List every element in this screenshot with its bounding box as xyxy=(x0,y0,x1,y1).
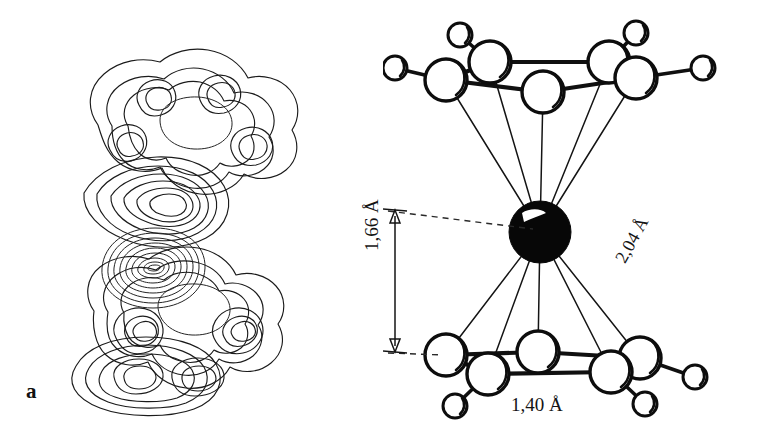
molecule-svg xyxy=(383,0,766,443)
cp-ring-top xyxy=(383,21,715,113)
iron-atom xyxy=(509,201,571,263)
carbon-atom xyxy=(469,41,511,83)
carbon-atom xyxy=(425,59,467,101)
panel-b-molecular-model: b xyxy=(383,0,766,443)
carbon-atom xyxy=(517,331,559,373)
cp-ring-bottom xyxy=(425,331,707,418)
figure-container: a xyxy=(0,0,766,443)
hydrogen-atom xyxy=(448,23,472,47)
dimension-label-metal-to-ring: 1,66 Å xyxy=(362,199,381,251)
panel-a-label: a xyxy=(26,381,37,402)
hydrogen-atom xyxy=(633,392,657,416)
hydrogen-atom xyxy=(683,365,707,389)
carbon-atom xyxy=(522,71,564,113)
panel-a-contour-map: a xyxy=(0,0,383,443)
carbon-atom xyxy=(615,57,657,99)
hydrogen-atom xyxy=(443,394,467,418)
dimension-label-carbon-carbon: 1,40 Å xyxy=(511,395,563,414)
hydrogen-atom xyxy=(691,56,715,80)
carbon-atom xyxy=(590,351,632,393)
hydrogen-atom xyxy=(383,56,407,80)
contour-top-ring xyxy=(90,49,297,194)
hydrogen-atom xyxy=(624,21,648,45)
contour-map-svg xyxy=(0,0,383,443)
carbon-atom xyxy=(425,334,467,376)
contour-bottom-ring xyxy=(72,247,284,416)
carbon-atom xyxy=(467,353,509,395)
